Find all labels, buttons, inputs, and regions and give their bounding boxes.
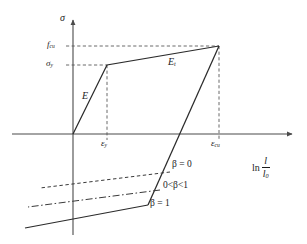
elastic-modulus-label: E <box>82 91 88 101</box>
residual-line-beta-1 <box>25 205 148 228</box>
beta-between-label: 0<β<1 <box>163 181 188 191</box>
x-axis-label: ln l l0 <box>252 156 270 179</box>
y-tick-label-fcu: fcu <box>47 40 55 50</box>
loading-curve <box>73 46 219 134</box>
y-axis-label: σ <box>60 13 65 23</box>
x-tick-label-epsiloncu: εcu <box>211 139 220 149</box>
x-axis-denominator: l0 <box>262 168 270 179</box>
residual-line-beta-0 <box>40 172 170 188</box>
x-axis-numerator: l <box>263 156 268 167</box>
x-tick-label-epsilony: εy <box>101 139 107 149</box>
residual-line-beta-between <box>28 190 160 207</box>
beta-zero-label: β = 0 <box>172 160 192 170</box>
x-axis-ln-operator: ln <box>252 163 260 173</box>
stress-strain-figure: σ fcu σy εy εcu ln l l0 E Et β = 0 0<β<1… <box>0 0 307 244</box>
tangent-modulus-label: Et <box>168 57 176 68</box>
y-tick-label-sigmay: σy <box>46 59 53 69</box>
beta-one-label: β = 1 <box>150 199 170 209</box>
x-axis-fraction: l l0 <box>262 156 270 179</box>
